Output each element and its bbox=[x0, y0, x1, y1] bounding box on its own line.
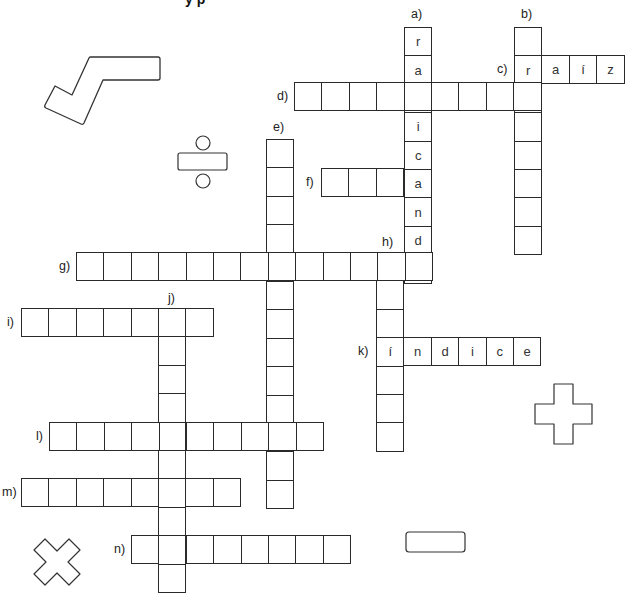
crossword-cell[interactable] bbox=[131, 422, 159, 451]
crossword-cell[interactable] bbox=[103, 308, 131, 337]
crossword-cell[interactable]: n bbox=[404, 197, 432, 226]
crossword-cell[interactable] bbox=[104, 422, 132, 451]
crossword-cell[interactable] bbox=[266, 366, 294, 395]
crossword-cell[interactable] bbox=[213, 422, 241, 451]
crossword-cell[interactable] bbox=[185, 478, 213, 507]
crossword-cell[interactable] bbox=[514, 169, 542, 198]
crossword-cell[interactable] bbox=[186, 422, 214, 451]
crossword-cell[interactable] bbox=[376, 422, 404, 451]
crossword-cell[interactable] bbox=[131, 478, 159, 507]
crossword-cell[interactable] bbox=[158, 308, 186, 337]
crossword-cell[interactable] bbox=[158, 393, 186, 422]
crossword-cell[interactable] bbox=[349, 82, 377, 111]
crossword-cell[interactable] bbox=[294, 82, 322, 111]
crossword-cell[interactable] bbox=[49, 422, 77, 451]
crossword-cell[interactable] bbox=[103, 252, 131, 281]
crossword-cell[interactable] bbox=[376, 394, 404, 423]
crossword-cell[interactable] bbox=[131, 252, 159, 281]
crossword-cell[interactable] bbox=[241, 422, 269, 451]
crossword-cell[interactable] bbox=[240, 252, 268, 281]
crossword-cell[interactable]: d bbox=[431, 337, 459, 366]
crossword-cell[interactable] bbox=[48, 478, 76, 507]
crossword-cell[interactable] bbox=[350, 252, 378, 281]
crossword-cell[interactable] bbox=[158, 365, 186, 394]
crossword-cell[interactable]: i bbox=[404, 112, 432, 141]
crossword-cell[interactable]: í bbox=[569, 55, 597, 84]
crossword-cell[interactable] bbox=[213, 535, 241, 564]
crossword-cell[interactable]: a bbox=[541, 55, 569, 84]
crossword-cell[interactable]: a bbox=[404, 55, 432, 84]
crossword-cell[interactable] bbox=[323, 252, 351, 281]
crossword-cell[interactable] bbox=[268, 535, 296, 564]
crossword-cell[interactable] bbox=[514, 197, 542, 226]
crossword-cell[interactable] bbox=[295, 535, 323, 564]
crossword-cell[interactable] bbox=[376, 280, 404, 309]
crossword-cell[interactable] bbox=[321, 82, 349, 111]
crossword-cell[interactable]: c bbox=[486, 337, 514, 366]
crossword-cell[interactable] bbox=[458, 82, 486, 111]
crossword-cell[interactable] bbox=[376, 366, 404, 395]
crossword-cell[interactable]: r bbox=[514, 55, 542, 84]
crossword-cell[interactable] bbox=[323, 535, 351, 564]
crossword-cell[interactable] bbox=[131, 535, 159, 564]
crossword-cell[interactable] bbox=[376, 82, 404, 111]
crossword-cell[interactable] bbox=[21, 478, 49, 507]
crossword-cell[interactable] bbox=[266, 196, 294, 225]
crossword-cell[interactable] bbox=[266, 281, 294, 310]
crossword-cell[interactable] bbox=[241, 535, 269, 564]
crossword-cell[interactable]: i bbox=[458, 337, 486, 366]
crossword-cell[interactable] bbox=[514, 27, 542, 56]
crossword-cell[interactable]: e bbox=[513, 337, 541, 366]
crossword-cell[interactable] bbox=[158, 252, 186, 281]
crossword-cell[interactable] bbox=[268, 422, 296, 451]
crossword-cell[interactable] bbox=[266, 139, 294, 168]
crossword-cell[interactable] bbox=[186, 252, 214, 281]
crossword-cell[interactable] bbox=[186, 535, 214, 564]
crossword-cell[interactable] bbox=[21, 308, 49, 337]
crossword-cell[interactable] bbox=[266, 395, 294, 424]
crossword-cell[interactable] bbox=[348, 168, 376, 197]
crossword-cell[interactable] bbox=[158, 564, 186, 593]
crossword-cell[interactable] bbox=[376, 168, 404, 197]
crossword-cell[interactable] bbox=[158, 422, 186, 451]
crossword-cell[interactable]: n bbox=[403, 337, 431, 366]
crossword-cell[interactable] bbox=[514, 112, 542, 141]
crossword-cell[interactable] bbox=[266, 309, 294, 338]
crossword-cell[interactable] bbox=[158, 535, 186, 564]
crossword-cell[interactable]: z bbox=[596, 55, 624, 84]
crossword-cell[interactable] bbox=[158, 336, 186, 365]
crossword-cell[interactable] bbox=[185, 308, 213, 337]
crossword-cell[interactable] bbox=[377, 252, 405, 281]
crossword-cell[interactable] bbox=[266, 338, 294, 367]
crossword-cell[interactable]: í bbox=[376, 337, 404, 366]
crossword-cell[interactable] bbox=[158, 450, 186, 479]
crossword-cell[interactable]: r bbox=[404, 27, 432, 56]
crossword-cell[interactable] bbox=[213, 478, 241, 507]
crossword-cell[interactable] bbox=[295, 252, 323, 281]
crossword-cell[interactable] bbox=[486, 82, 514, 111]
crossword-cell[interactable] bbox=[514, 226, 542, 255]
crossword-cell[interactable] bbox=[266, 224, 294, 253]
crossword-cell[interactable] bbox=[131, 308, 159, 337]
crossword-cell[interactable]: c bbox=[404, 141, 432, 170]
crossword-cell[interactable]: a bbox=[404, 169, 432, 198]
crossword-cell[interactable] bbox=[213, 252, 241, 281]
crossword-cell[interactable] bbox=[431, 82, 459, 111]
crossword-cell[interactable] bbox=[158, 478, 186, 507]
crossword-cell[interactable] bbox=[405, 252, 433, 281]
crossword-cell[interactable] bbox=[76, 478, 104, 507]
crossword-cell[interactable] bbox=[513, 82, 541, 111]
crossword-cell[interactable] bbox=[266, 167, 294, 196]
crossword-cell[interactable] bbox=[514, 141, 542, 170]
crossword-cell[interactable] bbox=[296, 422, 324, 451]
crossword-cell[interactable] bbox=[76, 308, 104, 337]
crossword-cell[interactable] bbox=[404, 82, 432, 111]
crossword-cell[interactable] bbox=[321, 168, 349, 197]
crossword-cell[interactable] bbox=[266, 480, 294, 509]
crossword-cell[interactable] bbox=[76, 252, 104, 281]
crossword-cell[interactable] bbox=[376, 309, 404, 338]
crossword-cell[interactable] bbox=[158, 507, 186, 536]
crossword-cell[interactable] bbox=[48, 308, 76, 337]
crossword-cell[interactable] bbox=[103, 478, 131, 507]
crossword-cell[interactable] bbox=[268, 252, 296, 281]
